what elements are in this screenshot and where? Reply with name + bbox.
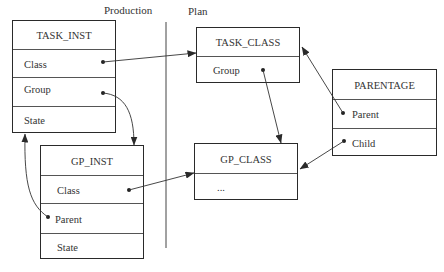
gp-class-field-ellipsis: ... bbox=[195, 173, 297, 200]
parentage-box: PARENTAGE Parent Child bbox=[332, 69, 437, 156]
task-class-title: TASK_CLASS bbox=[197, 28, 299, 56]
gp-class-box: GP_CLASS ... bbox=[194, 143, 298, 200]
parentage-field-child: Child bbox=[333, 128, 436, 156]
task-class-box: TASK_CLASS Group bbox=[196, 27, 300, 83]
task-inst-title: TASK_INST bbox=[13, 21, 115, 49]
production-heading: Production bbox=[104, 4, 152, 16]
task-inst-field-class: Class bbox=[13, 49, 115, 77]
gp-inst-title: GP_INST bbox=[41, 146, 143, 175]
gp-inst-box: GP_INST Class Parent State bbox=[40, 145, 144, 259]
task-class-field-group: Group bbox=[197, 56, 299, 83]
parentage-field-parent: Parent bbox=[333, 99, 436, 128]
task-inst-field-group: Group bbox=[13, 77, 115, 106]
parentage-title: PARENTAGE bbox=[333, 70, 436, 99]
gp-inst-field-class: Class bbox=[41, 175, 143, 203]
gp-inst-field-parent: Parent bbox=[41, 203, 143, 233]
task-inst-box: TASK_INST Class Group State bbox=[12, 20, 116, 133]
gp-inst-field-state: State bbox=[41, 233, 143, 259]
plan-heading: Plan bbox=[188, 5, 208, 17]
task-inst-field-state: State bbox=[13, 106, 115, 133]
gp-class-title: GP_CLASS bbox=[195, 144, 297, 173]
